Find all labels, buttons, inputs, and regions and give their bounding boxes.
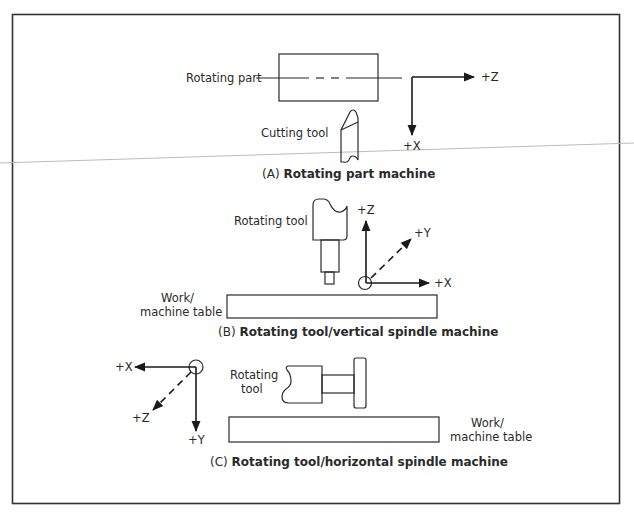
panel-b: Rotating tool +Z +Y +X Work/ machine tab…: [140, 199, 498, 339]
rotating-tool-horizontal: [282, 366, 322, 403]
label-axis-z: +Z: [481, 70, 499, 84]
label-rotating-tool-c-2: tool: [241, 382, 263, 396]
label-table-c-1: Work/: [471, 416, 504, 430]
label-axis-z-b: +Z: [357, 203, 375, 217]
axis-y-arrow-b: [371, 239, 411, 278]
label-rotating-tool-c-1: Rotating: [230, 368, 278, 382]
caption-a: (A) Rotating part machine: [262, 167, 435, 181]
label-rotating-part: Rotating part: [186, 71, 262, 85]
label-table-b-2: machine table: [140, 305, 222, 319]
label-cutting-tool: Cutting tool: [261, 126, 329, 140]
work-table-c: [229, 417, 439, 442]
label-axis-y-c: +Y: [188, 433, 206, 447]
scan-line: [0, 143, 634, 163]
label-axis-x-b: +X: [434, 276, 452, 290]
machine-axes-figure: Rotating part Cutting tool +Z +X (A) Rot…: [0, 0, 634, 517]
panel-a: Rotating part Cutting tool +Z +X (A) Rot…: [186, 54, 499, 181]
spindle-plate: [354, 358, 366, 408]
panel-c: +X +Z +Y Rotating tool Work/ machine tab…: [115, 358, 532, 469]
work-table-b: [227, 295, 437, 318]
rotating-tool-vertical: [313, 199, 347, 240]
label-table-c-2: machine table: [450, 430, 532, 444]
caption-b: (B) Rotating tool/vertical spindle machi…: [218, 325, 498, 339]
label-rotating-tool-b: Rotating tool: [234, 214, 308, 228]
label-axis-y-b: +Y: [414, 226, 432, 240]
caption-c: (C) Rotating tool/horizontal spindle mac…: [210, 455, 508, 469]
cutting-tool: [341, 110, 358, 162]
label-axis-z-c: +Z: [132, 411, 150, 425]
axis-z-arrow-c: [153, 372, 191, 410]
label-axis-x-c: +X: [115, 360, 133, 374]
figure-canvas: Rotating part Cutting tool +Z +X (A) Rot…: [0, 0, 634, 517]
label-axis-x: +X: [403, 139, 421, 153]
label-table-b-1: Work/: [161, 291, 194, 305]
